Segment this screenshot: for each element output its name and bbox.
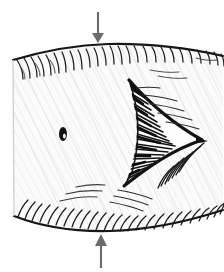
bottom-compression-arrow [95, 234, 107, 268]
dark-spot [59, 127, 67, 141]
dark-spot-highlight [63, 133, 66, 138]
top-arrow-head [92, 33, 104, 43]
body-left-edge [13, 60, 14, 216]
top-compression-arrow [92, 12, 104, 43]
figure-root [0, 0, 224, 272]
bottom-arrow-head [95, 234, 107, 246]
compression-diagram [0, 0, 224, 272]
body-group [0, 30, 224, 250]
